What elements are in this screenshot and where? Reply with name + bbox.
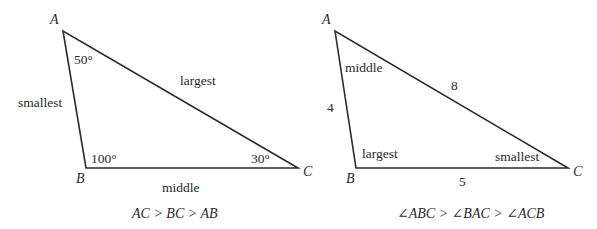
side-ac-label: largest [180,74,216,88]
left-triangle [63,31,298,168]
angle-b-label: largest [362,147,398,161]
side-bc-label: 5 [459,175,466,189]
side-bc-label: middle [162,181,200,195]
vertex-label-b: B [346,172,355,186]
angle-c-label: 30° [251,152,270,166]
angle-relation: ∠ABC > ∠BAC > ∠ACB [397,207,544,221]
vertex-label-c: C [303,165,312,179]
angle-b-label: 100° [91,152,117,166]
vertex-label-c: C [573,165,582,179]
side-ab-label: smallest [18,96,62,110]
vertex-label-b: B [76,172,85,186]
vertex-label-a: A [322,13,331,27]
angle-a-label: middle [345,61,383,75]
side-ac-label: 8 [451,79,458,93]
vertex-label-a: A [50,13,59,27]
side-relation: AC > BC > AB [132,207,218,221]
side-ab-label: 4 [327,101,334,115]
angle-c-label: smallest [495,150,539,164]
angle-a-label: 50° [74,53,93,67]
triangles-drawing [0,0,597,229]
